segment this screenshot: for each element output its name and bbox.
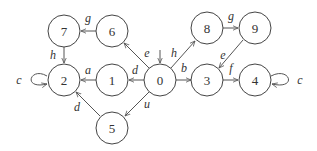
- state-node-9: 9: [239, 12, 271, 44]
- edge-7-2: h: [50, 47, 64, 63]
- svg-text:d: d: [74, 100, 81, 114]
- edge-0-1: d: [129, 63, 144, 80]
- svg-text:4: 4: [252, 73, 259, 88]
- svg-text:6: 6: [109, 24, 116, 39]
- state-node-3: 3: [191, 64, 223, 96]
- state-node-1: 1: [96, 64, 128, 96]
- edge-1-2: a: [81, 63, 96, 80]
- svg-text:g: g: [228, 9, 234, 23]
- state-node-0: 0: [144, 64, 176, 96]
- svg-text:7: 7: [61, 24, 68, 39]
- edge-0-3: b: [176, 61, 191, 80]
- svg-text:8: 8: [204, 21, 211, 36]
- svg-text:d: d: [132, 63, 139, 77]
- svg-text:c: c: [16, 73, 22, 87]
- edge-3-4: f: [223, 61, 238, 80]
- svg-text:5: 5: [109, 121, 116, 136]
- svg-text:h: h: [50, 48, 56, 62]
- edge-2-2-loop: c: [16, 73, 47, 87]
- svg-text:c: c: [297, 73, 303, 87]
- state-node-8: 8: [191, 12, 223, 44]
- state-diagram: d a e g h c u d: [0, 0, 317, 151]
- svg-text:2: 2: [61, 73, 68, 88]
- svg-text:e: e: [220, 48, 226, 62]
- svg-text:3: 3: [204, 73, 211, 88]
- svg-text:e: e: [144, 46, 150, 60]
- svg-text:b: b: [181, 61, 187, 75]
- state-node-6: 6: [96, 15, 128, 47]
- svg-text:0: 0: [157, 73, 164, 88]
- state-node-5: 5: [96, 112, 128, 144]
- svg-text:h: h: [171, 46, 177, 60]
- state-node-2: 2: [48, 64, 80, 96]
- edge-5-2: d: [74, 92, 100, 116]
- svg-text:u: u: [144, 97, 150, 111]
- state-node-7: 7: [48, 15, 80, 47]
- edge-8-9: g: [223, 9, 238, 28]
- svg-text:a: a: [85, 63, 91, 77]
- svg-text:f: f: [229, 61, 234, 75]
- state-node-4: 4: [239, 64, 271, 96]
- edge-6-7: g: [81, 11, 96, 31]
- edge-4-4-loop: c: [271, 73, 303, 87]
- edge-0-5: u: [125, 92, 150, 116]
- svg-text:g: g: [85, 11, 91, 25]
- svg-text:9: 9: [252, 21, 259, 36]
- svg-text:1: 1: [109, 73, 116, 88]
